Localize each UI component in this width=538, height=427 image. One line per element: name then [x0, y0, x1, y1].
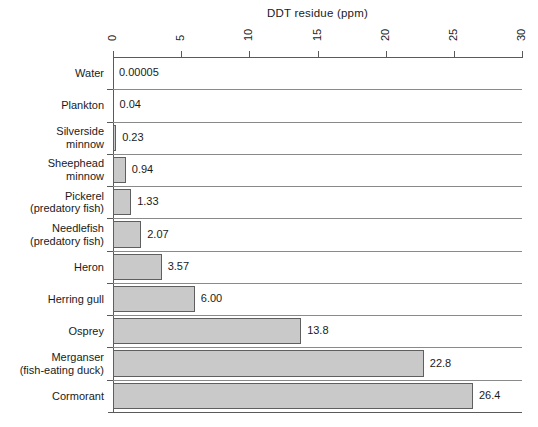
bar-value-label: 13.8 [307, 324, 328, 336]
category-label: Merganser(fish-eating duck) [0, 351, 104, 376]
bar [113, 221, 141, 247]
row-separator [113, 283, 522, 284]
y-tick-mark [107, 89, 113, 90]
category-label-line: (predatory fish) [0, 202, 104, 215]
x-tick-label: 25 [448, 29, 459, 41]
x-tick-label: 20 [380, 29, 391, 41]
row-separator [113, 251, 522, 252]
chart-title: DDT residue (ppm) [113, 7, 522, 19]
category-label-line: Osprey [0, 325, 104, 338]
bar [113, 383, 473, 409]
category-label: Herring gull [0, 293, 104, 306]
row-separator [113, 315, 522, 316]
category-label: Silversideminnow [0, 125, 104, 150]
x-tick-label: 0 [107, 35, 118, 41]
row-separator [113, 380, 522, 381]
category-label: Osprey [0, 325, 104, 338]
row-separator [113, 347, 522, 348]
category-label-line: Cormorant [0, 390, 104, 403]
category-label: Sheepheadminnow [0, 157, 104, 182]
y-tick-mark [107, 154, 113, 155]
bar-value-label: 3.57 [168, 260, 189, 272]
bar [113, 318, 301, 344]
row-separator [113, 89, 522, 90]
bar [113, 254, 162, 280]
y-tick-mark [107, 218, 113, 219]
bar-value-label: 2.07 [147, 228, 168, 240]
bar-value-label: 22.8 [430, 357, 451, 369]
bar-value-label: 6.00 [201, 292, 222, 304]
plot-bottom-line [108, 412, 522, 413]
bar-value-label: 0.94 [132, 163, 153, 175]
ddt-biomagnification-chart: DDT residue (ppm) 051015202530 0.00005Wa… [0, 0, 538, 427]
category-label-line: (fish-eating duck) [0, 364, 104, 377]
y-tick-mark [107, 315, 113, 316]
category-label-line: Herring gull [0, 293, 104, 306]
category-label-line: Water [0, 67, 104, 80]
bar-value-label: 1.33 [137, 195, 158, 207]
category-label: Plankton [0, 99, 104, 112]
bar-value-label: 0.00005 [119, 66, 159, 78]
category-label: Cormorant [0, 390, 104, 403]
bar [113, 92, 114, 118]
row-separator [113, 154, 522, 155]
plot-area [113, 57, 522, 412]
category-label-line: Heron [0, 261, 104, 274]
category-label: Heron [0, 261, 104, 274]
bar [113, 286, 195, 312]
category-label-line: Merganser [0, 351, 104, 364]
y-tick-mark [107, 251, 113, 252]
category-label-line: (predatory fish) [0, 235, 104, 248]
category-label-line: Plankton [0, 99, 104, 112]
y-tick-mark [107, 347, 113, 348]
bar [113, 189, 131, 215]
bar-value-label: 0.04 [120, 98, 141, 110]
x-tick-label: 30 [516, 29, 527, 41]
row-separator [113, 218, 522, 219]
bar [113, 350, 424, 376]
category-label: Water [0, 67, 104, 80]
bar-value-label: 0.23 [122, 131, 143, 143]
x-tick-mark [522, 51, 523, 58]
y-tick-mark [107, 380, 113, 381]
bar-value-label: 26.4 [479, 389, 500, 401]
x-tick-label: 5 [175, 35, 186, 41]
bar [113, 157, 126, 183]
category-label-line: Needlefish [0, 222, 104, 235]
category-label-line: Pickerel [0, 190, 104, 203]
category-label-line: minnow [0, 170, 104, 183]
x-tick-label: 15 [312, 29, 323, 41]
category-label: Pickerel(predatory fish) [0, 190, 104, 215]
y-tick-mark [107, 186, 113, 187]
category-label-line: Silverside [0, 125, 104, 138]
y-tick-mark [107, 283, 113, 284]
category-label: Needlefish(predatory fish) [0, 222, 104, 247]
row-separator [113, 122, 522, 123]
row-separator [113, 186, 522, 187]
y-tick-mark [107, 122, 113, 123]
bar [113, 125, 116, 151]
category-label-line: minnow [0, 138, 104, 151]
x-tick-label: 10 [243, 29, 254, 41]
category-label-line: Sheephead [0, 157, 104, 170]
